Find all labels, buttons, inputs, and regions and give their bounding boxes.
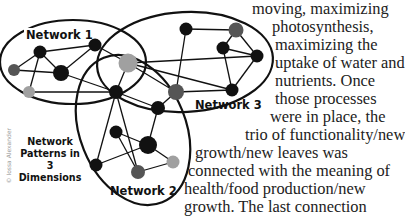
node [119, 54, 138, 73]
node [180, 23, 193, 36]
text-line: uptake of water and [275, 54, 405, 72]
text-line: growth. The last connection [184, 198, 367, 216]
diagram-caption: Network Patterns in 3 Dimensions [16, 136, 84, 184]
text-line: growth/new leaves was [195, 144, 348, 162]
node [229, 23, 244, 38]
caption-line: Dimensions [16, 172, 84, 184]
text-line: trio of functionality/new [245, 126, 405, 144]
node [23, 86, 35, 98]
node [139, 136, 157, 154]
node [151, 101, 165, 115]
node [168, 84, 184, 100]
caption-line: Patterns in 3 [16, 148, 84, 172]
node [131, 165, 145, 179]
node [167, 156, 180, 169]
text-line: those processes [275, 90, 377, 108]
node [53, 65, 69, 81]
text-line: maximizing the [275, 36, 377, 54]
node [110, 126, 123, 139]
text-line: health/food production/new [184, 180, 366, 198]
caption-line: Network [16, 136, 84, 148]
text-line: photosynthesis, [272, 18, 374, 36]
node [251, 50, 264, 63]
node [90, 159, 103, 172]
node [217, 42, 230, 55]
node [34, 46, 47, 59]
text-line: were in place, the [270, 108, 386, 126]
node [109, 85, 123, 99]
network-1-label: Network 1 [26, 28, 93, 42]
node [226, 84, 239, 97]
text-line: nutrients. Once [275, 72, 375, 90]
network-2-label: Network 2 [110, 184, 177, 198]
image-credit: © Iossa Alexander [5, 124, 12, 184]
node [8, 64, 20, 76]
network-3-label: Network 3 [195, 98, 262, 112]
text-line: moving, maximizing [252, 0, 389, 18]
text-line: connected with the meaning of [188, 162, 390, 180]
